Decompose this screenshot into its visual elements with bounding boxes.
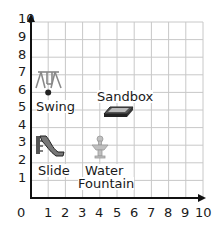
slide-icon xyxy=(36,136,64,156)
x-tick-9: 9 xyxy=(181,205,189,220)
y-tick-10: 10 xyxy=(18,11,35,26)
x-tick-10: 10 xyxy=(195,205,212,220)
x-tick-2: 2 xyxy=(61,205,69,220)
swing-label: Swing xyxy=(36,100,75,113)
y-tick-2: 2 xyxy=(18,152,26,167)
fountain-label: Fountain xyxy=(78,177,134,190)
x-tick-5: 5 xyxy=(113,205,121,220)
water-fountain-icon xyxy=(92,136,108,158)
x-tick-7: 7 xyxy=(147,205,155,220)
x-tick-0: 0 xyxy=(17,205,25,220)
x-axis-arrow-icon xyxy=(198,194,206,202)
y-tick-8: 8 xyxy=(18,47,26,62)
slide-label: Slide xyxy=(38,164,70,177)
x-tick-8: 8 xyxy=(164,205,172,220)
y-tick-6: 6 xyxy=(18,82,26,97)
y-tick-9: 9 xyxy=(18,29,26,44)
y-tick-5: 5 xyxy=(18,99,26,114)
grid-svg xyxy=(0,0,222,232)
sandbox-icon xyxy=(104,107,133,117)
coordinate-grid-diagram: 10 9 8 7 6 5 4 3 2 1 0 1 2 3 4 5 6 7 8 9… xyxy=(0,0,222,232)
x-tick-3: 3 xyxy=(78,205,86,220)
x-tick-1: 1 xyxy=(44,205,52,220)
swing-point xyxy=(45,89,51,95)
sandbox-label: Sandbox xyxy=(97,90,153,103)
y-tick-4: 4 xyxy=(18,117,26,132)
x-tick-4: 4 xyxy=(95,205,103,220)
y-tick-7: 7 xyxy=(18,64,26,79)
y-tick-3: 3 xyxy=(18,134,26,149)
x-tick-6: 6 xyxy=(130,205,138,220)
y-tick-1: 1 xyxy=(18,170,26,185)
